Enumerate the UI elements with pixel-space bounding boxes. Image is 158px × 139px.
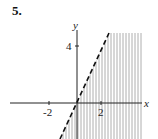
x-tick-label-2: 2 [98,106,104,118]
shaded-region [60,30,141,139]
y-tick-label-4: 4 [66,40,72,52]
inequality-graph: -2 2 4 x y [0,0,158,139]
x-axis-label: x [143,97,149,109]
x-tick-label-neg2: -2 [43,106,52,118]
y-axis-label: y [72,19,78,31]
